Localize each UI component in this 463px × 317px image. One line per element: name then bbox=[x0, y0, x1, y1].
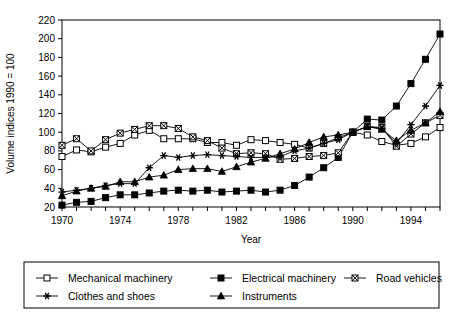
legend-item-clothes-and-shoes[interactable]: Clothes and shoes bbox=[36, 290, 155, 302]
legend-item-label: Mechanical machinery bbox=[68, 272, 173, 284]
y-tick-label: 100 bbox=[38, 127, 55, 138]
data-point bbox=[219, 139, 225, 145]
legend-item-label: Instruments bbox=[242, 290, 297, 302]
data-point bbox=[305, 139, 312, 146]
y-tick-label: 40 bbox=[44, 183, 56, 194]
data-point bbox=[321, 165, 327, 171]
y-tick-label: 200 bbox=[38, 33, 55, 44]
data-point bbox=[218, 152, 225, 158]
data-point bbox=[437, 31, 443, 37]
data-point bbox=[248, 187, 254, 193]
data-point bbox=[74, 199, 80, 205]
x-tick-label: 1982 bbox=[225, 215, 248, 226]
data-point bbox=[59, 202, 65, 208]
data-point bbox=[175, 154, 182, 160]
legend-item-mechanical-machinery[interactable]: Mechanical machinery bbox=[36, 272, 173, 284]
data-point bbox=[161, 136, 167, 142]
y-tick-label: 60 bbox=[44, 164, 56, 175]
data-point bbox=[422, 134, 428, 140]
legend-item-label: Clothes and shoes bbox=[68, 290, 155, 302]
legend: Mechanical machineryElectrical machinery… bbox=[24, 262, 442, 308]
data-point bbox=[59, 154, 65, 160]
data-point bbox=[393, 103, 399, 109]
series-group bbox=[58, 31, 443, 208]
legend-marker-filled-square bbox=[218, 275, 224, 281]
data-point bbox=[190, 188, 196, 194]
data-point bbox=[233, 188, 239, 194]
y-tick-label: 120 bbox=[38, 108, 55, 119]
y-tick-label: 80 bbox=[44, 145, 56, 156]
data-point bbox=[422, 56, 428, 62]
legend-marker-asterisk bbox=[43, 293, 50, 299]
data-point bbox=[146, 190, 152, 196]
data-point bbox=[103, 144, 109, 150]
series-electrical-machinery bbox=[59, 31, 443, 208]
x-tick-label: 1970 bbox=[51, 215, 74, 226]
legend-marker-open-square bbox=[44, 275, 50, 281]
line-chart: 20406080100120140160180200220Volume indi… bbox=[0, 0, 463, 317]
data-point bbox=[88, 198, 94, 204]
legend-item-instruments[interactable]: Instruments bbox=[210, 290, 297, 302]
legend-item-road-vehicles[interactable]: Road vehicles bbox=[344, 272, 442, 284]
y-tick-label: 220 bbox=[38, 15, 55, 26]
data-point bbox=[132, 132, 138, 138]
chart-canvas: 20406080100120140160180200220Volume indi… bbox=[0, 0, 463, 317]
y-tick-label: 180 bbox=[38, 52, 55, 63]
data-point bbox=[436, 108, 443, 115]
x-tick-label: 1978 bbox=[167, 215, 190, 226]
x-axis-title: Year bbox=[241, 234, 262, 245]
data-point bbox=[160, 172, 167, 179]
data-point bbox=[189, 152, 196, 158]
data-point bbox=[277, 187, 283, 193]
y-tick-label: 140 bbox=[38, 89, 55, 100]
y-tick-label: 160 bbox=[38, 71, 55, 82]
data-point bbox=[379, 117, 385, 123]
x-tick-label: 1986 bbox=[283, 215, 306, 226]
legend-item-label: Road vehicles bbox=[376, 272, 442, 284]
data-point bbox=[408, 140, 414, 146]
data-point bbox=[204, 152, 211, 158]
data-point bbox=[117, 140, 123, 146]
data-point bbox=[175, 187, 181, 193]
x-axis: 1970197419781982198619901994Year bbox=[51, 207, 440, 245]
data-point bbox=[248, 137, 254, 143]
x-tick-label: 1974 bbox=[109, 215, 132, 226]
y-axis-title: Volume indices 1990 = 100 bbox=[5, 53, 16, 174]
legend-item-electrical-machinery[interactable]: Electrical machinery bbox=[210, 272, 337, 284]
data-point bbox=[306, 174, 312, 180]
y-axis: 20406080100120140160180200220Volume indi… bbox=[5, 15, 62, 213]
y-tick-label: 20 bbox=[44, 202, 56, 213]
data-point bbox=[204, 187, 210, 193]
data-point bbox=[132, 192, 138, 198]
data-point bbox=[364, 116, 370, 122]
data-point bbox=[233, 142, 239, 148]
data-point bbox=[408, 81, 414, 87]
data-point bbox=[437, 125, 443, 131]
data-point bbox=[74, 147, 80, 153]
x-tick-label: 1990 bbox=[342, 215, 365, 226]
plot-frame bbox=[62, 20, 440, 207]
data-point bbox=[117, 192, 123, 198]
data-point bbox=[379, 139, 385, 145]
data-point bbox=[219, 189, 225, 195]
data-point bbox=[161, 188, 167, 194]
data-point bbox=[263, 138, 269, 144]
data-point bbox=[292, 182, 298, 188]
plot-border bbox=[62, 20, 440, 207]
data-point bbox=[175, 136, 181, 142]
data-point bbox=[103, 195, 109, 201]
data-point bbox=[263, 189, 269, 195]
data-point bbox=[422, 103, 429, 109]
data-point bbox=[277, 139, 283, 145]
x-tick-label: 1994 bbox=[400, 215, 423, 226]
legend-item-label: Electrical machinery bbox=[242, 272, 337, 284]
data-point bbox=[364, 132, 370, 138]
